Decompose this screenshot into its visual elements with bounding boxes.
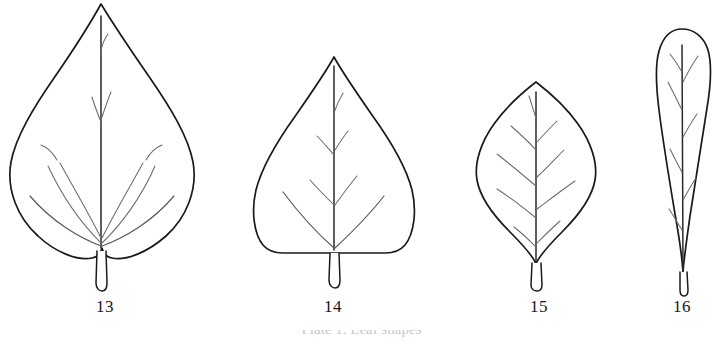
leaf-illustrations-svg <box>0 0 723 342</box>
figure-number-15: 15 <box>509 297 569 317</box>
leaf-13-petiole <box>96 251 107 291</box>
leaf-figure-16 <box>656 29 710 296</box>
plate-caption-text: Plate 1. Leaf shapes <box>0 330 723 338</box>
leaf-13-outline <box>10 4 194 259</box>
leaf-16-petiole <box>680 272 688 296</box>
figure-number-16: 16 <box>652 297 712 317</box>
leaf-14-petiole <box>329 253 340 288</box>
leaf-figure-14 <box>254 57 415 288</box>
leaf-16-midrib <box>682 45 683 272</box>
figure-number-13: 13 <box>75 297 135 317</box>
plate-caption-strip: Plate 1. Leaf shapes <box>0 330 723 342</box>
leaf-shape-plate: 13 14 15 16 Plate 1. Leaf shapes <box>0 0 723 342</box>
leaf-figure-13 <box>10 4 194 291</box>
leaf-figure-15 <box>476 82 595 291</box>
figure-number-14: 14 <box>303 297 363 317</box>
leaf-15-petiole <box>531 263 542 291</box>
